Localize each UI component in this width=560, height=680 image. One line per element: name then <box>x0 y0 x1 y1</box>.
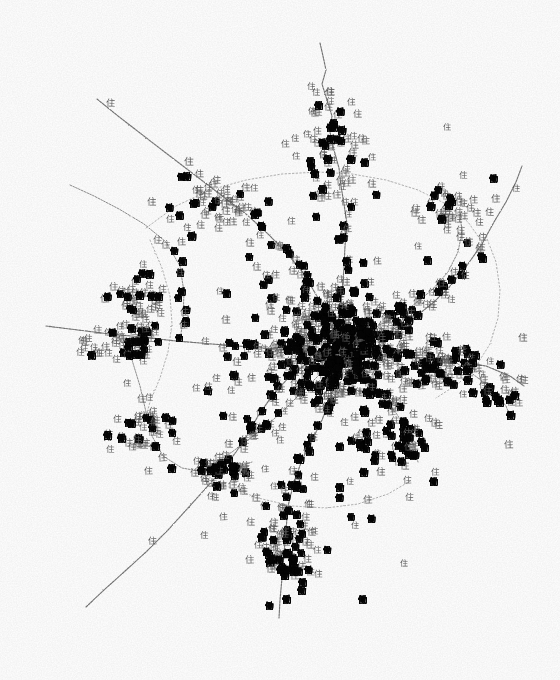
road-east-northeast <box>345 166 522 348</box>
road-south-arterial <box>279 356 338 618</box>
road-north-ring-arc <box>146 172 482 242</box>
road-network-layer <box>0 0 560 680</box>
road-west-arterial <box>46 326 524 386</box>
road-north-spur <box>320 43 347 340</box>
road-west-ring-arc <box>144 240 172 424</box>
road-southeast-branch <box>342 358 418 462</box>
roads-group <box>46 43 524 618</box>
land-use-map-figure: 住住住住住住住住住住住住住住住住住住住住住住住住住住住住住住住住住住住住住住住住… <box>0 0 560 680</box>
road-northwest-diagonal <box>97 99 338 344</box>
road-south-ring-arc <box>196 470 412 508</box>
road-west-northwest <box>70 185 184 342</box>
road-east-ring-arc <box>436 236 500 398</box>
road-south-southwest <box>200 356 336 472</box>
road-east-tail <box>452 360 510 416</box>
